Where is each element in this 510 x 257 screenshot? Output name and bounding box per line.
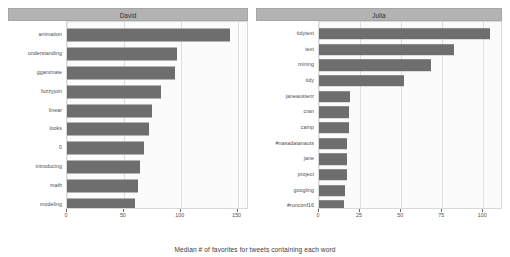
bar bbox=[67, 123, 149, 136]
x-axis-tick-label: 50 bbox=[120, 212, 126, 218]
y-axis-tick-label: #runconf16 bbox=[287, 202, 314, 208]
x-axis-tick-label: 75 bbox=[438, 212, 444, 218]
chart-container: David animationunderstandinggganimatefuz… bbox=[0, 0, 510, 257]
bar bbox=[319, 59, 431, 71]
x-axis-tick-label: 0 bbox=[65, 212, 68, 218]
plot-panel-julia bbox=[318, 21, 502, 209]
bar bbox=[67, 161, 140, 174]
facet-panel-julia: Julia tidytexttextminingtidyjaneaustenrc… bbox=[256, 8, 502, 223]
bar bbox=[67, 29, 230, 42]
bar bbox=[319, 106, 349, 118]
y-axis-tick-label: cran bbox=[303, 108, 314, 114]
bar bbox=[67, 67, 175, 80]
bar bbox=[319, 185, 345, 197]
facet-strip-label: David bbox=[9, 11, 247, 18]
y-axis-tick-label: looks bbox=[49, 125, 62, 131]
x-axis-title: Median # of favorites for tweets contain… bbox=[0, 246, 510, 253]
plot-row-julia: tidytexttextminingtidyjaneaustenrcrancam… bbox=[256, 21, 502, 223]
bar bbox=[67, 179, 138, 192]
y-axis-tick-label: gganimate bbox=[37, 69, 62, 75]
y-axis-tick-label: math bbox=[50, 182, 62, 188]
y-axis-tick-label: project bbox=[298, 171, 314, 177]
x-axis-julia: 0255075100 bbox=[318, 209, 502, 223]
bar bbox=[319, 75, 404, 87]
bar bbox=[67, 48, 177, 61]
bar bbox=[319, 169, 347, 181]
facet-strip-julia: Julia bbox=[256, 8, 502, 21]
y-axis-tick-label: modeling bbox=[40, 201, 62, 207]
y-axis-tick-label: linear bbox=[49, 107, 62, 113]
grid-line bbox=[181, 22, 182, 208]
y-axis-tick-label: tidy bbox=[306, 77, 314, 83]
y-axis-tick-label: animation bbox=[39, 31, 62, 37]
bar bbox=[319, 122, 349, 134]
y-axis-labels-julia: tidytexttextminingtidyjaneaustenrcrancam… bbox=[256, 21, 318, 223]
x-axis-tick-label: 100 bbox=[175, 212, 184, 218]
y-axis-tick-label: mining bbox=[298, 61, 314, 67]
grid-line bbox=[238, 22, 239, 208]
grid-line bbox=[483, 22, 484, 208]
x-axis-david: 050100150 bbox=[66, 209, 248, 223]
x-axis-tick-label: 0 bbox=[317, 212, 320, 218]
bar bbox=[319, 138, 347, 150]
facet-panel-david: David animationunderstandinggganimatefuz… bbox=[8, 8, 248, 223]
x-axis-tick-label: 150 bbox=[232, 212, 241, 218]
x-axis-tick-label: 100 bbox=[478, 212, 487, 218]
y-axis-tick-label: janeaustenr bbox=[286, 93, 314, 99]
y-axis-tick-label: googling bbox=[294, 187, 314, 193]
y-axis-tick-label: #nasadatanauts bbox=[276, 140, 314, 146]
bar bbox=[319, 153, 347, 165]
x-axis-tick-label: 50 bbox=[397, 212, 403, 218]
y-axis-tick-label: 0 bbox=[59, 144, 62, 150]
facet-strip-david: David bbox=[8, 8, 248, 21]
plot-row-david: animationunderstandinggganimatefuzzyjoin… bbox=[8, 21, 248, 223]
bar bbox=[319, 28, 490, 40]
bar bbox=[319, 44, 454, 56]
y-axis-tick-label: tidytext bbox=[297, 30, 314, 36]
y-axis-labels-david: animationunderstandinggganimatefuzzyjoin… bbox=[8, 21, 66, 223]
bar bbox=[67, 142, 144, 155]
y-axis-tick-label: text bbox=[305, 46, 314, 52]
y-axis-tick-label: jane bbox=[304, 155, 314, 161]
plot-panel-david bbox=[66, 21, 248, 209]
bar bbox=[67, 198, 135, 209]
bar bbox=[67, 104, 152, 117]
facet-strip-label: Julia bbox=[257, 11, 501, 18]
bar bbox=[67, 85, 161, 98]
y-axis-tick-label: camp bbox=[301, 124, 314, 130]
bar bbox=[319, 200, 344, 209]
bar bbox=[319, 91, 350, 103]
y-axis-tick-label: understanding bbox=[28, 50, 62, 56]
y-axis-tick-label: introducing bbox=[36, 163, 62, 169]
y-axis-tick-label: fuzzyjoin bbox=[41, 88, 62, 94]
x-axis-tick-label: 25 bbox=[356, 212, 362, 218]
